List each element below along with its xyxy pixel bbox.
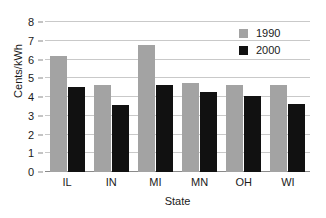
y-axis-tick-mark [38, 40, 43, 41]
bar [94, 85, 111, 172]
bar [226, 85, 243, 172]
bar [112, 105, 129, 172]
legend-label: 2000 [256, 45, 280, 56]
legend-item: 2000 [239, 45, 280, 56]
x-axis-tick-labels: ILINMIMNOHWI [45, 176, 310, 192]
bar-group [45, 22, 89, 172]
bar [288, 104, 305, 172]
bar [182, 83, 199, 172]
y-axis-tick-label: 4 [28, 92, 34, 103]
y-axis-tick-label: 7 [28, 35, 34, 46]
y-axis-tick-label: 6 [28, 54, 34, 65]
bar [244, 96, 261, 172]
y-axis-tick-mark [38, 172, 43, 173]
bar [200, 92, 217, 172]
legend-swatch-icon [239, 46, 248, 55]
y-axis-tick-label: 8 [28, 17, 34, 28]
x-axis-tick-label: MN [191, 176, 208, 188]
bar [156, 85, 173, 172]
legend-item: 1990 [239, 28, 280, 39]
bar [270, 85, 287, 172]
legend-swatch-icon [239, 29, 248, 38]
y-axis-tick-label: 3 [28, 110, 34, 121]
x-axis-tick-label: IL [62, 176, 71, 188]
legend: 19902000 [239, 28, 280, 56]
x-axis-tick-label: MI [149, 176, 161, 188]
y-axis-tick-mark [38, 134, 43, 135]
legend-label: 1990 [256, 28, 280, 39]
bar [68, 87, 85, 172]
x-axis-tick-label: IN [106, 176, 117, 188]
bar-group [89, 22, 133, 172]
y-axis-tick-label: 2 [28, 129, 34, 140]
y-axis-tick-mark [38, 22, 43, 23]
y-axis-tick-mark [38, 115, 43, 116]
y-axis-tick-mark [38, 97, 43, 98]
y-axis-tick-mark [38, 153, 43, 154]
y-axis-tick-mark [38, 59, 43, 60]
x-axis-tick-label: WI [281, 176, 294, 188]
y-axis-tick-label: 5 [28, 73, 34, 84]
bar [50, 56, 67, 172]
y-axis-tick-label: 1 [28, 148, 34, 159]
y-axis-tick-labels: 012345678 [0, 22, 42, 172]
bar-group [178, 22, 222, 172]
bar [138, 45, 155, 172]
bar-group [133, 22, 177, 172]
x-axis-tick-label: OH [236, 176, 253, 188]
y-axis-tick-mark [38, 78, 43, 79]
bar-chart: Cents/kWh 012345678 ILINMIMNOHWI State 1… [0, 0, 326, 218]
y-axis-tick-label: 0 [28, 167, 34, 178]
x-axis-title: State [45, 195, 310, 207]
